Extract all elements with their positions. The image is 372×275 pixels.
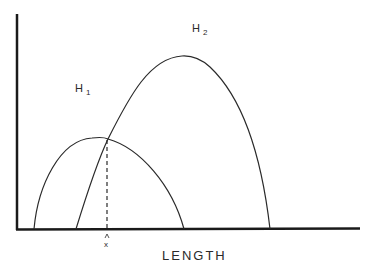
curve-h1-subscript: 1 — [86, 88, 90, 97]
x-axis-label: LENGTH — [162, 248, 227, 263]
marker-x-label: x — [104, 240, 108, 249]
curve-h2-name: H — [192, 22, 200, 34]
curve-h1-label: H1 — [75, 82, 90, 94]
curve-h1-name: H — [75, 82, 83, 94]
diagram-canvas — [0, 0, 372, 275]
curve-h2-subscript: 2 — [203, 28, 207, 37]
x-axis — [16, 229, 360, 230]
curve-h1 — [34, 138, 184, 229]
marker-arrow-icon — [105, 234, 109, 238]
curve-h2 — [76, 56, 270, 229]
curve-h2-label: H2 — [192, 22, 207, 34]
